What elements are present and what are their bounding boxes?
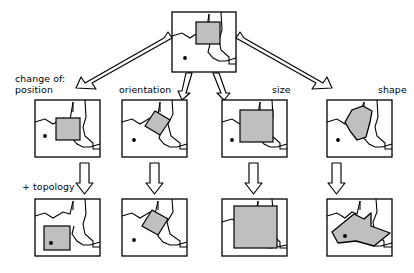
shape-topology-dot <box>343 234 347 238</box>
size-dot <box>230 138 234 142</box>
arrow-to-size <box>213 73 230 100</box>
shape-map <box>327 100 392 157</box>
orientation-dot <box>132 138 136 142</box>
position-map <box>35 100 100 157</box>
arrow-to-orientation <box>178 73 192 100</box>
position-topology-map <box>35 199 100 256</box>
reference-object <box>196 22 220 44</box>
shape-dot <box>336 138 340 142</box>
size-topology-map <box>222 199 287 256</box>
size-topology-object <box>234 206 277 248</box>
diagram-svg <box>0 0 414 273</box>
orientation-topology-map <box>122 199 187 256</box>
position-topology-object <box>44 226 70 250</box>
arrow-position-topology <box>76 163 93 194</box>
diagram-canvas <box>0 0 414 273</box>
orientation-topology-dot <box>132 238 136 242</box>
arrow-shape-topology <box>328 163 345 194</box>
label-topology: + topology <box>22 181 75 192</box>
label-change-of-position: change of: position <box>15 73 65 95</box>
label-orientation: orientation <box>119 84 171 95</box>
size-map <box>222 100 287 157</box>
label-shape: shape <box>378 84 407 95</box>
position-topology-dot <box>49 241 53 245</box>
reference-dot <box>183 56 187 60</box>
arrow-size-topology <box>245 163 262 194</box>
position-dot <box>43 134 47 138</box>
position-object <box>56 118 80 140</box>
shape-topology-map <box>327 199 392 256</box>
arrow-orientation-topology <box>146 163 163 194</box>
arrow-to-position <box>76 32 172 89</box>
orientation-map <box>122 100 187 157</box>
size-object <box>240 110 273 142</box>
reference-map <box>172 12 236 72</box>
arrow-to-shape <box>236 32 332 89</box>
label-size: size <box>272 84 291 95</box>
